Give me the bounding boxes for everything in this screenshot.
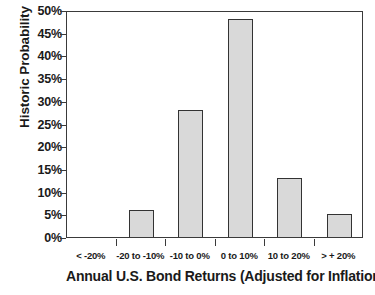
y-axis-tick-mark <box>60 79 66 80</box>
y-axis-tick-label: 10% <box>22 186 62 200</box>
y-axis-tick-mark <box>60 34 66 35</box>
y-axis-tick-mark <box>60 102 66 103</box>
x-axis-tick-mark <box>314 239 315 246</box>
x-axis-tick-mark <box>215 239 216 246</box>
y-axis-tick-mark <box>60 147 66 148</box>
x-axis-tick-mark <box>264 239 265 246</box>
bar <box>228 19 253 237</box>
y-axis-tick-label: 50% <box>22 4 62 18</box>
y-axis-tick-mark <box>60 215 66 216</box>
y-axis-tick-label: 45% <box>22 27 62 41</box>
x-axis-tick-label: -10 to 0% <box>170 250 210 261</box>
x-axis-tick-mark <box>116 239 117 246</box>
y-axis-tick-label: 0% <box>22 231 62 245</box>
x-axis-tick-label: 0 to 10% <box>221 250 258 261</box>
x-axis-tick-label: > + 20% <box>321 250 355 261</box>
bar <box>129 210 154 237</box>
bar-chart-figure: Historic Probability 0%5%10%15%20%25%30%… <box>0 0 375 295</box>
plot-area <box>66 11 363 238</box>
x-axis-tick-label: -20 to -10% <box>116 250 164 261</box>
y-axis-tick-mark <box>60 170 66 171</box>
y-axis-tick-mark <box>60 11 66 12</box>
y-axis-tick-label: 25% <box>22 118 62 132</box>
y-axis-tick-mark <box>60 125 66 126</box>
y-axis-tick-label: 30% <box>22 95 62 109</box>
y-axis-tick-label: 20% <box>22 140 62 154</box>
x-axis-title: Annual U.S. Bond Returns (Adjusted for I… <box>66 268 363 284</box>
y-axis-tick-label: 15% <box>22 163 62 177</box>
y-axis-tick-label: 40% <box>22 49 62 63</box>
x-axis-tick-label: 10 to 20% <box>268 250 310 261</box>
y-axis-tick-mark <box>60 193 66 194</box>
bar <box>327 214 352 237</box>
y-axis-tick-label: 35% <box>22 72 62 86</box>
y-axis-tick-mark <box>60 56 66 57</box>
plot-inner <box>67 12 362 237</box>
y-axis-tick-mark <box>60 238 66 239</box>
x-axis-tick-mark <box>165 239 166 246</box>
bar <box>178 110 203 237</box>
x-axis-tick-label: < -20% <box>76 250 105 261</box>
y-axis-tick-label: 5% <box>22 208 62 222</box>
bar <box>277 178 302 237</box>
